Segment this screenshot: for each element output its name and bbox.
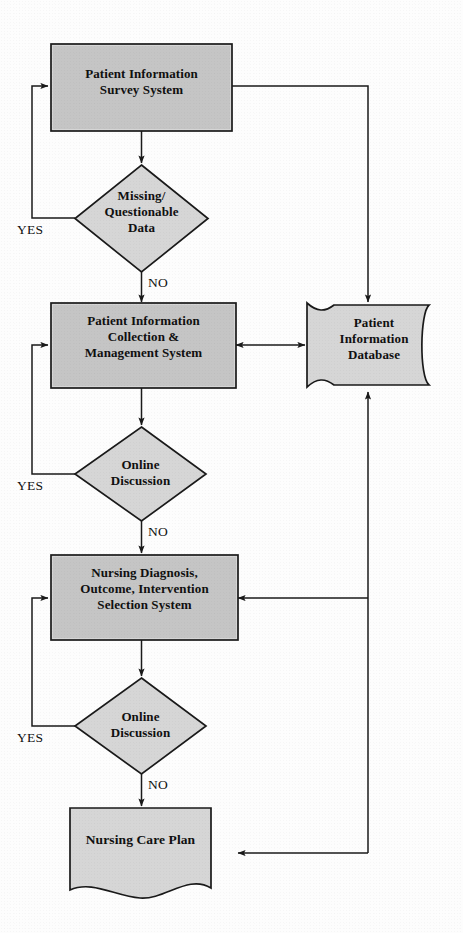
flowchart-graphic <box>0 0 463 933</box>
node-nursing-care-plan <box>70 808 211 898</box>
node-online-discussion-decision-2 <box>75 678 206 774</box>
node-patient-information-database <box>307 303 429 387</box>
node-missing-data-decision <box>75 165 208 272</box>
edge-survey-to-database <box>232 86 368 302</box>
node-online-discussion-decision-1 <box>75 427 206 521</box>
flowchart-canvas: Patient Information Survey System Missin… <box>0 0 463 933</box>
